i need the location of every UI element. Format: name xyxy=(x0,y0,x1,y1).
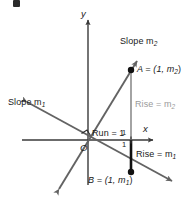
rise-m1-subscript: 1 xyxy=(173,153,177,160)
slope-diagram-figure: y x O 1 1 Slope m2 Slope m1 A = (1, m2) … xyxy=(0,0,193,209)
slope-m1-subscript: 1 xyxy=(42,101,46,108)
rise-m2-subscript: 2 xyxy=(172,103,176,110)
rise-m1-text: Rise = m xyxy=(136,149,173,159)
rise-tick-label: 1 xyxy=(122,141,126,149)
rise-m2-label: Rise = m2 xyxy=(135,100,175,109)
point-b-text: B = (1, m xyxy=(88,175,126,185)
slope-m2-label: Slope m2 xyxy=(120,37,157,46)
point-a-subscript: 2 xyxy=(174,68,178,75)
x-axis-label: x xyxy=(143,124,148,134)
rise-m2-text: Rise = m xyxy=(135,99,172,109)
slope-m2-text: Slope m xyxy=(120,36,154,46)
rise-m1-label: Rise = m1 xyxy=(136,150,176,159)
point-a-label: A = (1, m2) xyxy=(137,65,181,74)
point-b-subscript: 1 xyxy=(126,179,130,186)
slope-m1-text: Slope m xyxy=(8,97,42,107)
slope-m1-label: Slope m1 xyxy=(8,98,45,107)
origin-label: O xyxy=(80,143,88,153)
run-label: Run = 1 xyxy=(92,129,124,138)
scan-artifact-mark xyxy=(13,0,20,7)
y-axis-label: y xyxy=(81,9,86,19)
point-a-text: A = (1, m xyxy=(137,64,174,74)
point-a-marker xyxy=(128,67,134,73)
slope-m2-subscript: 2 xyxy=(154,40,158,47)
point-a-paren: ) xyxy=(178,64,181,74)
slope-m1-line xyxy=(27,102,172,181)
point-b-label: B = (1, m1) xyxy=(88,176,133,185)
point-b-paren: ) xyxy=(129,175,132,185)
